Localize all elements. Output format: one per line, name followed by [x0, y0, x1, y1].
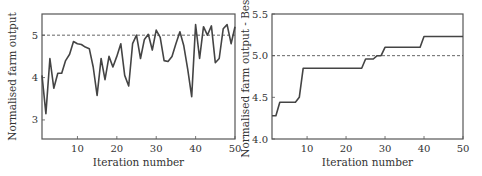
- best-farm-output-plot: 10203040504.04.55.05.5Iteration numberNo…: [241, 0, 482, 176]
- x-tick-label: 30: [379, 143, 392, 154]
- x-tick-label: 50: [229, 143, 241, 154]
- x-tick-label: 10: [71, 143, 84, 154]
- y-axis-label: Normalised farm output: [6, 11, 18, 140]
- x-axis-label: Iteration number: [322, 156, 414, 168]
- x-tick-label: 30: [150, 143, 163, 154]
- right-chart: 10203040504.04.55.05.5Iteration numberNo…: [241, 0, 482, 176]
- data-line: [42, 25, 235, 114]
- x-tick-label: 50: [457, 143, 470, 154]
- y-tick-label: 5.5: [252, 9, 268, 20]
- left-chart: 1020304050345Iteration numberNormalised …: [0, 0, 241, 176]
- y-tick-label: 3: [32, 114, 38, 125]
- axes-frame: [272, 14, 463, 139]
- y-axis-label: Normalised farm output - Best: [241, 0, 251, 158]
- farm-output-plot: 1020304050345Iteration numberNormalised …: [0, 0, 241, 176]
- y-tick-label: 4.0: [252, 134, 268, 145]
- x-axis-label: Iteration number: [93, 156, 185, 168]
- x-tick-label: 40: [189, 143, 202, 154]
- y-tick-label: 4.5: [252, 92, 268, 103]
- x-tick-label: 40: [418, 143, 431, 154]
- x-tick-label: 10: [301, 143, 314, 154]
- data-line: [272, 37, 463, 116]
- y-tick-label: 4: [32, 72, 38, 83]
- x-tick-label: 20: [340, 143, 353, 154]
- y-tick-label: 5: [32, 30, 38, 41]
- y-tick-label: 5.0: [252, 50, 268, 61]
- x-tick-label: 20: [110, 143, 123, 154]
